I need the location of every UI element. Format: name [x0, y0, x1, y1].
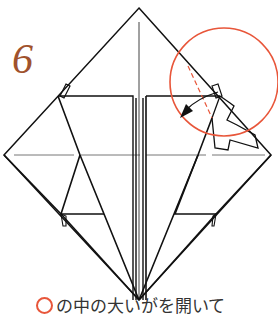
left-outer-lower [4, 155, 61, 214]
zigzag-detail [212, 96, 258, 150]
step-number: 6 [12, 38, 33, 80]
fold-arrow [186, 92, 218, 110]
caption-text: の中の大いがを開いて [56, 296, 225, 316]
right-lower-tab [212, 214, 216, 226]
left-flap-edge [58, 96, 139, 300]
right-lower-edge [139, 214, 216, 300]
highlight-circle [170, 28, 278, 136]
caption: の中の大いがを開いて [36, 297, 225, 315]
left-lower-triangle [61, 155, 104, 214]
right-outer-lower [216, 155, 271, 214]
circle-mark-icon [36, 297, 53, 314]
left-lower-edge [61, 214, 139, 300]
right-flap-lower [139, 118, 212, 300]
right-lower-triangle [175, 155, 216, 214]
outer-diamond [4, 8, 271, 300]
